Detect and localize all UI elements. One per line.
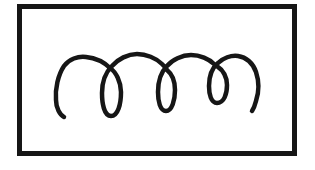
figure-container xyxy=(0,0,315,170)
frame-border xyxy=(20,7,295,154)
drawing-canvas xyxy=(0,0,315,170)
